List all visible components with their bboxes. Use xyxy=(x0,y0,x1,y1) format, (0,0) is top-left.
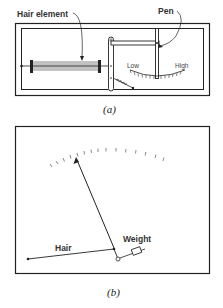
hair-element xyxy=(30,60,101,73)
label-hair: Hair xyxy=(55,243,72,253)
frame-b xyxy=(16,127,210,274)
spring xyxy=(113,78,134,89)
hygrometer-diagram: Low High Hair element Pen (a) xyxy=(0,0,223,308)
label-low: Low xyxy=(127,62,139,69)
figure-b: Hair Weight (b) xyxy=(16,127,210,300)
figure-a: Low High Hair element Pen (a) xyxy=(16,6,210,116)
pivot xyxy=(116,257,120,261)
label-pen: Pen xyxy=(158,6,174,16)
pen-arm xyxy=(111,41,159,45)
scale-ticks-b xyxy=(50,148,164,167)
weight xyxy=(131,247,142,256)
label-weight: Weight xyxy=(123,234,151,244)
pen xyxy=(156,29,159,79)
caption-b: (b) xyxy=(107,286,120,299)
caption-a: (a) xyxy=(103,103,116,116)
pointer xyxy=(77,160,114,248)
label-high: High xyxy=(175,62,189,70)
label-hair-element: Hair element xyxy=(17,9,68,19)
leader-hair-element xyxy=(73,13,82,58)
